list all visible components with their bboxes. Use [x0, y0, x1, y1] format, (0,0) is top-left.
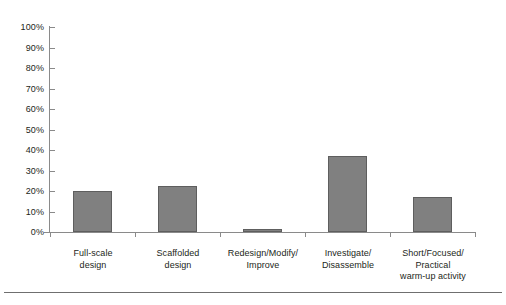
bar	[328, 156, 367, 232]
x-axis-category-label-line: Investigate/	[300, 248, 396, 260]
x-axis-tick	[220, 232, 221, 237]
y-axis-tick-label: 40%	[0, 146, 44, 155]
x-axis-tick	[135, 232, 136, 237]
x-axis-category-label: Scaffoldeddesign	[130, 248, 226, 271]
y-axis-tick-label: 60%	[0, 105, 44, 114]
y-axis-tick-label: 30%	[0, 167, 44, 176]
y-axis-tick-label: 0%	[0, 228, 44, 237]
y-axis-tick-label: 20%	[0, 187, 44, 196]
y-axis-tick-label: 70%	[0, 85, 44, 94]
x-axis-category-label: Full-scaledesign	[45, 248, 141, 271]
x-axis-category-label-line: Redesign/Modify/	[215, 248, 311, 260]
x-axis-category-label-line: warm-up activity	[385, 271, 481, 283]
y-axis-tick-label: 80%	[0, 64, 44, 73]
bar	[158, 186, 197, 232]
x-axis-category-label-line: design	[45, 260, 141, 272]
x-axis-tick	[305, 232, 306, 237]
x-axis-tick	[390, 232, 391, 237]
x-axis-category-label: Short/Focused/Practicalwarm-up activity	[385, 248, 481, 283]
bar	[73, 191, 112, 232]
x-axis-tick	[475, 232, 476, 237]
x-axis-category-label-line: design	[130, 260, 226, 272]
plot-area	[50, 27, 475, 232]
footer-divider	[4, 292, 502, 293]
y-axis-tick-label: 50%	[0, 126, 44, 135]
x-axis-category-label: Investigate/Disassemble	[300, 248, 396, 271]
x-axis-category-label-line: Short/Focused/	[385, 248, 481, 260]
y-axis-tick-label: 10%	[0, 208, 44, 217]
x-axis-category-label-line: Scaffolded	[130, 248, 226, 260]
x-axis-tick	[50, 232, 51, 237]
y-axis-tick-label: 90%	[0, 44, 44, 53]
x-axis-category-label-line: Disassemble	[300, 260, 396, 272]
bar	[243, 229, 282, 232]
x-axis-line	[44, 232, 476, 233]
x-axis-category-label: Redesign/Modify/Improve	[215, 248, 311, 271]
x-axis-category-label-line: Improve	[215, 260, 311, 272]
bar	[413, 197, 452, 232]
x-axis-category-label-line: Practical	[385, 260, 481, 272]
bar-chart-figure: 0%10%20%30%40%50%60%70%80%90%100% Full-s…	[0, 0, 506, 305]
x-axis-category-label-line: Full-scale	[45, 248, 141, 260]
y-axis-tick-label: 100%	[0, 23, 44, 32]
